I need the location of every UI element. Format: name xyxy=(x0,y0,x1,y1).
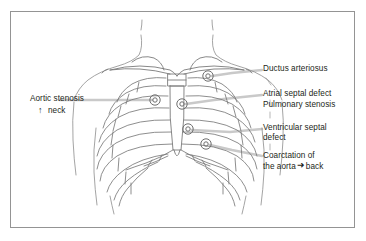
left-arm-outline xyxy=(73,102,76,175)
left-cc-6 xyxy=(112,145,113,158)
left-torso-edge xyxy=(94,128,97,205)
left-clavicle-lower xyxy=(110,69,170,74)
costal-margin xyxy=(126,150,228,170)
leader-ventricular-septal xyxy=(192,129,262,132)
label-neck: neck xyxy=(48,106,66,116)
coarctation-back-text: back xyxy=(306,162,324,171)
left-clavicle xyxy=(110,66,177,76)
right-costal-arch-inner xyxy=(186,156,210,166)
leader-ductus-arteriosus xyxy=(212,70,262,76)
left-cc-1 xyxy=(137,82,139,92)
left-arch-tick-2 xyxy=(159,155,162,161)
figure-container: Aortic stenosis ↑ neck Ductus arteriosus… xyxy=(0,0,366,241)
leader-atrial-septal xyxy=(186,95,262,104)
sternum-body xyxy=(170,86,184,150)
label-ductus-arteriosus: Ductus arteriosus xyxy=(263,64,328,74)
rib-cage-left xyxy=(97,78,172,206)
label-ventricular-septal-defect-line1: Ventricular septal xyxy=(263,123,327,133)
right-neck-line xyxy=(212,20,213,30)
label-coarctation-line2: the aorta➜back xyxy=(263,161,323,172)
label-ventricular-septal-defect-line2: defect xyxy=(263,133,286,143)
auscultation-markers xyxy=(150,71,213,149)
left-rib-1 xyxy=(117,78,166,102)
right-flank xyxy=(242,196,246,214)
thorax-line-drawing xyxy=(0,0,366,241)
right-arch-tick-2 xyxy=(192,155,195,161)
label-coarctation-line1: Coarctation of xyxy=(263,151,315,161)
leader-coarctation xyxy=(210,145,262,156)
label-pulmonary-stenosis: Pulmonary stenosis xyxy=(263,100,335,110)
left-costal-arch-inner xyxy=(144,156,168,166)
up-arrow-icon: ↑ xyxy=(38,105,43,115)
left-rib-5 xyxy=(97,120,170,156)
right-rib-9 xyxy=(196,162,240,200)
left-rib-10 xyxy=(119,168,148,206)
right-cc-1 xyxy=(215,82,217,92)
left-cc-3 xyxy=(118,106,121,117)
xiphoid-process xyxy=(174,150,180,156)
leader-lines xyxy=(60,70,262,156)
right-cc-6 xyxy=(241,145,242,158)
right-arrow-icon: ➜ xyxy=(296,160,306,170)
right-rib-5 xyxy=(184,120,257,156)
label-aortic-stenosis: Aortic stenosis xyxy=(30,94,84,104)
coarctation-aorta-text: the aorta xyxy=(263,162,296,171)
right-rib-10 xyxy=(206,168,235,206)
left-neck-line xyxy=(141,20,142,30)
left-rib-9 xyxy=(114,162,158,200)
right-cc-3 xyxy=(233,106,236,117)
right-cc-7 xyxy=(235,158,236,171)
left-costal-arch xyxy=(126,150,173,170)
label-atrial-septal-defect: Atrial septal defect xyxy=(263,89,331,99)
left-cc-7 xyxy=(118,158,119,171)
right-costal-arch xyxy=(181,150,228,170)
body-outline xyxy=(73,20,284,214)
left-flank xyxy=(110,196,114,214)
